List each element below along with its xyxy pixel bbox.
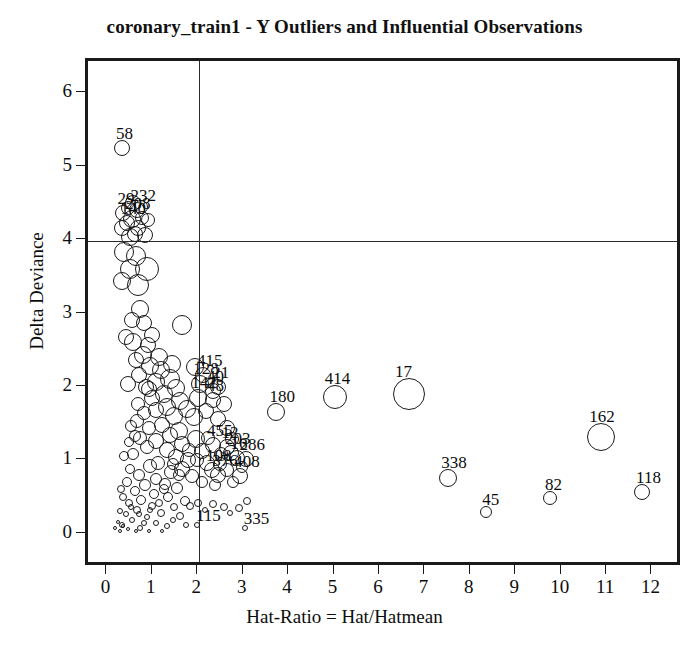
x-tick-2 — [196, 565, 197, 574]
y-tick-label-1: 1 — [56, 447, 72, 469]
data-point — [170, 503, 178, 511]
y-tick-0 — [76, 532, 85, 533]
data-point — [171, 482, 183, 494]
data-point — [137, 227, 153, 243]
y-tick-label-5: 5 — [56, 154, 72, 176]
point-label-118: 118 — [636, 469, 661, 486]
y-axis-label: Delta Deviance — [26, 191, 48, 391]
point-label-338: 338 — [441, 454, 467, 471]
chart-title: coronary_train1 - Y Outliers and Influen… — [0, 16, 689, 38]
data-point — [124, 437, 134, 447]
data-point — [186, 502, 194, 510]
data-point — [243, 497, 251, 505]
x-tick-5 — [333, 565, 334, 574]
data-point — [227, 510, 233, 516]
x-tick-8 — [469, 565, 470, 574]
x-tick-10 — [560, 565, 561, 574]
data-point — [173, 469, 185, 481]
data-point — [126, 527, 130, 531]
data-point — [121, 524, 125, 528]
data-point — [153, 520, 159, 526]
data-point — [196, 476, 208, 488]
data-point — [163, 355, 181, 373]
y-tick-1 — [76, 458, 85, 459]
x-tick-label-1: 1 — [146, 576, 156, 598]
x-tick-label-6: 6 — [373, 576, 383, 598]
x-tick-6 — [378, 565, 379, 574]
point-label-414: 414 — [325, 370, 351, 387]
plot-frame: 5829232208140415128214014248180414171624… — [85, 58, 680, 565]
y-tick-3 — [76, 312, 85, 313]
y-tick-6 — [76, 91, 85, 92]
data-point — [134, 529, 138, 533]
data-point — [129, 517, 135, 523]
x-tick-label-11: 11 — [596, 576, 614, 598]
x-tick-label-7: 7 — [419, 576, 429, 598]
point-label-48: 48 — [207, 377, 224, 394]
data-point — [118, 329, 134, 345]
point-label-140: 140 — [121, 200, 147, 217]
x-tick-3 — [242, 565, 243, 574]
data-point — [113, 526, 117, 530]
data-point — [160, 529, 164, 533]
data-point — [147, 529, 151, 533]
y-tick-label-0: 0 — [56, 521, 72, 543]
x-tick-12 — [650, 565, 651, 574]
data-point — [118, 529, 122, 533]
x-tick-0 — [105, 565, 106, 574]
y-tick-label-2: 2 — [56, 374, 72, 396]
chart-page: coronary_train1 - Y Outliers and Influen… — [0, 0, 689, 671]
data-point — [157, 509, 165, 517]
data-point-162 — [587, 423, 615, 451]
data-point-17 — [393, 378, 425, 410]
data-point — [116, 520, 120, 524]
x-tick-9 — [514, 565, 515, 574]
point-label-286: 286 — [240, 436, 266, 453]
y-tick-label-3: 3 — [56, 301, 72, 323]
data-point — [117, 508, 123, 514]
data-point — [119, 451, 129, 461]
x-tick-label-5: 5 — [328, 576, 338, 598]
data-point — [170, 517, 176, 523]
x-tick-label-12: 12 — [641, 576, 660, 598]
x-tick-label-10: 10 — [550, 576, 569, 598]
point-label-115: 115 — [196, 507, 221, 524]
x-tick-11 — [605, 565, 606, 574]
data-point — [127, 448, 139, 460]
data-point — [147, 507, 153, 513]
data-point — [141, 520, 147, 526]
data-point — [183, 522, 189, 528]
data-point — [136, 511, 142, 517]
x-tick-4 — [287, 565, 288, 574]
data-point — [139, 479, 151, 491]
data-point — [120, 376, 136, 392]
data-point — [123, 511, 129, 517]
data-point — [125, 464, 135, 474]
y-tick-4 — [76, 238, 85, 239]
x-tick-label-9: 9 — [509, 576, 519, 598]
plot-area: 5829232208140415128214014248180414171624… — [88, 61, 677, 562]
data-point — [155, 499, 163, 507]
data-point — [164, 523, 170, 529]
point-label-45: 45 — [482, 491, 499, 508]
data-point — [131, 397, 145, 411]
x-tick-7 — [423, 565, 424, 574]
y-tick-label-4: 4 — [56, 227, 72, 249]
data-point — [176, 512, 184, 520]
data-point — [190, 453, 204, 467]
data-point — [136, 495, 146, 505]
point-label-162: 162 — [589, 408, 615, 425]
point-label-335: 335 — [244, 510, 270, 527]
data-point — [172, 315, 192, 335]
x-tick-label-8: 8 — [464, 576, 474, 598]
point-label-58: 58 — [116, 125, 133, 142]
x-tick-1 — [151, 565, 152, 574]
data-point — [143, 459, 157, 473]
point-label-17: 17 — [395, 363, 412, 380]
data-point-414 — [323, 385, 347, 409]
data-point — [127, 274, 149, 296]
point-label-408: 408 — [234, 453, 260, 470]
data-point — [235, 504, 243, 512]
x-axis-label: Hat-Ratio = Hat/Hatmean — [0, 606, 689, 628]
data-point — [149, 489, 159, 499]
